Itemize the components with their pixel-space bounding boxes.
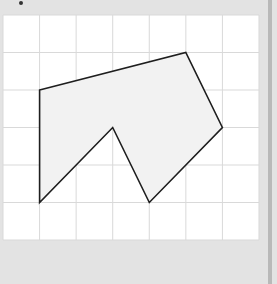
grid-figure (0, 0, 277, 284)
